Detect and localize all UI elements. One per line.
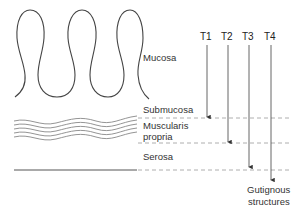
label-structures: structures [248,196,290,207]
label-mucosa: Mucosa [143,52,176,63]
label-muscularis-2: propria [143,131,173,142]
mucosa-villi [15,10,149,99]
stage-t1: T1 [200,31,212,42]
stage-t4: T4 [264,31,276,42]
label-gutignous: Gutignous [247,184,290,195]
stage-arrows [207,45,271,180]
label-muscularis-1: Muscularis [143,120,188,131]
stage-t3: T3 [242,31,254,42]
muscularis-waves [14,116,137,140]
label-serosa: Serosa [143,151,173,162]
stage-t2: T2 [221,31,233,42]
label-submucosa: Submucosa [143,104,193,115]
